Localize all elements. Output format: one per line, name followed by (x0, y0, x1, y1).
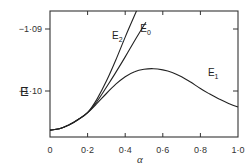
series-label-e0: E0 (140, 23, 151, 36)
y-axis-label: E (20, 84, 29, 99)
x-axis-label: α (137, 153, 143, 165)
x-tick-label: 0 (47, 145, 52, 155)
x-tick-label: 1·0 (231, 145, 244, 155)
x-tick-label: 0·2 (81, 145, 94, 155)
series-label-e1: E1 (208, 67, 219, 80)
y-tick-label: −1·09 (19, 24, 42, 34)
line-chart: 00·20·40·60·81·0 −1·09−1·10 E2E0E1 E α (0, 0, 252, 168)
series-e1-line (50, 69, 238, 130)
x-tick-label: 0·6 (156, 145, 169, 155)
series-e2-line (50, 11, 137, 130)
x-tick-label: 0·8 (194, 145, 207, 155)
series-e0-line (50, 22, 146, 130)
y-axis: −1·09−1·10 (19, 24, 238, 96)
series-label-e2: E2 (112, 30, 123, 43)
x-tick-label: 0·4 (119, 145, 132, 155)
